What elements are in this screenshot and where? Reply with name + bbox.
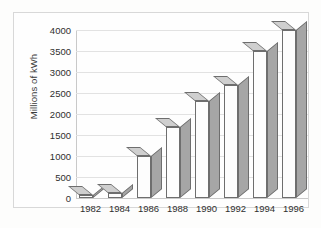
y-tick-label: 2000 bbox=[50, 109, 71, 120]
bar-1996[interactable] bbox=[282, 30, 296, 198]
x-tick-label-1994: 1994 bbox=[254, 203, 275, 214]
bar-side-face bbox=[267, 42, 278, 198]
y-tick-label: 4000 bbox=[50, 25, 71, 36]
bar-1990[interactable] bbox=[195, 101, 209, 198]
bar-1992[interactable] bbox=[224, 85, 238, 198]
gridline bbox=[76, 198, 308, 199]
bar-slot bbox=[221, 30, 250, 198]
bar-front-face bbox=[224, 85, 238, 198]
bar-slot bbox=[105, 30, 134, 198]
bar-side-face bbox=[122, 184, 133, 198]
bar-1994[interactable] bbox=[253, 51, 267, 198]
x-tick-label-1988: 1988 bbox=[167, 203, 188, 214]
y-tick-label: 1500 bbox=[50, 130, 71, 141]
x-tick-label-1990: 1990 bbox=[196, 203, 217, 214]
x-tick-label-1992: 1992 bbox=[225, 203, 246, 214]
bar-1984[interactable] bbox=[108, 193, 122, 198]
bar-side-face bbox=[209, 92, 220, 198]
bar-front-face bbox=[79, 195, 93, 198]
x-tick-label-1996: 1996 bbox=[283, 203, 304, 214]
bar-slot bbox=[76, 30, 105, 198]
bar-slot bbox=[250, 30, 279, 198]
bar-front-face bbox=[137, 156, 151, 198]
bar-slot bbox=[134, 30, 163, 198]
bar-front-face bbox=[253, 51, 267, 198]
bar-1988[interactable] bbox=[166, 127, 180, 198]
y-tick-label: 2500 bbox=[50, 88, 71, 99]
bar-slot bbox=[279, 30, 308, 198]
chart-frame: Millions of kWh 050010001500200025003000… bbox=[13, 12, 309, 208]
y-tick-label: 3000 bbox=[50, 67, 71, 78]
bar-1982[interactable] bbox=[79, 195, 93, 198]
bar-side-face bbox=[180, 118, 191, 198]
bar-top-face bbox=[271, 21, 296, 30]
y-tick-label: 3500 bbox=[50, 46, 71, 57]
chart-figure: Millions of kWh 050010001500200025003000… bbox=[0, 0, 321, 228]
plot-area: 05001000150020002500300035004000 bbox=[76, 30, 308, 198]
y-tick-label: 0 bbox=[66, 193, 71, 204]
x-tick-label-1986: 1986 bbox=[138, 203, 159, 214]
x-tick-label-1982: 1982 bbox=[80, 203, 101, 214]
bar-side-face bbox=[296, 21, 307, 198]
bar-front-face bbox=[195, 101, 209, 198]
x-tick-label-1984: 1984 bbox=[109, 203, 130, 214]
bar-front-face bbox=[166, 127, 180, 198]
y-tick-label: 500 bbox=[55, 172, 71, 183]
bar-side-face bbox=[238, 76, 249, 198]
bar-top-face bbox=[68, 186, 93, 195]
y-axis-title: Millions of kWh bbox=[28, 39, 39, 135]
bar-front-face bbox=[108, 193, 122, 198]
bar-slot bbox=[192, 30, 221, 198]
bar-front-face bbox=[282, 30, 296, 198]
bar-1986[interactable] bbox=[137, 156, 151, 198]
y-tick-label: 1000 bbox=[50, 151, 71, 162]
bar-series bbox=[76, 30, 308, 198]
bar-slot bbox=[163, 30, 192, 198]
bar-side-face bbox=[151, 147, 162, 198]
